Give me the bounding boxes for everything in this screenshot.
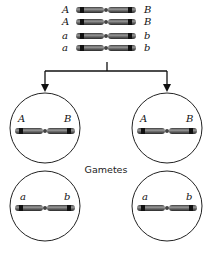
allele-label: a [62,42,68,53]
allele-label: A [139,113,147,124]
allele-label: A [61,16,69,27]
allele-label: b [144,30,150,41]
allele-label: a [142,191,148,202]
allele-label: B [63,113,71,124]
arrow-head-icon [163,84,171,92]
allele-label: a [20,191,26,202]
meiosis-diagram: A B A B a b a b A B A B Gametes a b [0,0,213,254]
gametes-caption: Gametes [85,164,128,175]
gamete-cell-2: A B [132,93,202,163]
allele-label: B [185,113,193,124]
gamete-cell-4: a b [132,171,202,241]
gamete-cell-3: a b [10,171,80,241]
allele-label: b [186,191,192,202]
allele-label: b [64,191,70,202]
allele-label: B [143,4,151,15]
arrow-head-icon [41,84,49,92]
allele-label: A [61,4,69,15]
allele-label: a [62,30,68,41]
allele-label: b [144,42,150,53]
parent-chromosome-pair-AB: A B A B [61,4,151,27]
allele-label: B [143,16,151,27]
allele-label: A [17,113,25,124]
parent-chromosome-pair-ab: a b a b [62,30,150,53]
division-arrows [45,62,167,86]
gamete-cell-1: A B [10,93,80,163]
